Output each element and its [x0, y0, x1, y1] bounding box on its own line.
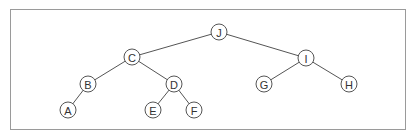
node-label: A	[64, 105, 72, 117]
node-h: H	[341, 76, 357, 92]
node-label: B	[84, 79, 91, 91]
node-i: I	[298, 50, 314, 66]
node-d: D	[166, 76, 182, 92]
node-label: F	[191, 105, 198, 117]
node-label: E	[149, 105, 156, 117]
node-b: B	[80, 76, 96, 92]
edge-j-i	[219, 32, 306, 58]
node-e: E	[145, 102, 161, 118]
node-label: G	[260, 79, 269, 91]
node-label: H	[345, 79, 353, 91]
edge-j-c	[132, 32, 219, 57]
node-f: F	[186, 102, 202, 118]
node-label: D	[170, 79, 178, 91]
node-g: G	[256, 76, 272, 92]
tree-edges	[68, 32, 349, 110]
node-label: J	[216, 27, 222, 39]
node-label: C	[128, 52, 136, 64]
node-label: I	[304, 53, 307, 65]
tree-nodes: JCIBDGHAEF	[60, 24, 357, 118]
node-j: J	[211, 24, 227, 40]
tree-diagram: JCIBDGHAEF	[0, 0, 414, 136]
node-a: A	[60, 102, 76, 118]
node-c: C	[124, 49, 140, 65]
